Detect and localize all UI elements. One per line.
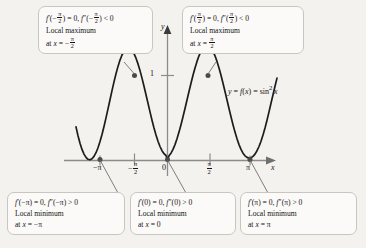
callout-location: at x = π2 bbox=[190, 36, 297, 50]
callout-classification: Local maximum bbox=[46, 25, 146, 36]
leader-line-min-right bbox=[250, 160, 268, 193]
leader-line-min-left bbox=[100, 160, 118, 193]
x-tick-label-half-pi: π2 bbox=[206, 161, 212, 175]
callout-location: at x = 0 bbox=[138, 219, 229, 230]
point-local-min-pi bbox=[248, 157, 253, 162]
y-tick-label-one: 1 bbox=[150, 69, 154, 78]
x-axis-label: x bbox=[271, 163, 275, 172]
callout-classification: Local minimum bbox=[15, 208, 118, 219]
callout-local-min-neg-pi: f′(−π) = 0, f″(−π) > 0 Local minimum at … bbox=[7, 192, 125, 235]
callout-location: at x = −π2 bbox=[46, 36, 146, 50]
leader-line-max-right bbox=[208, 62, 216, 74]
point-local-min-neg-pi bbox=[98, 157, 103, 162]
callout-location: at x = −π bbox=[15, 219, 118, 230]
callout-local-max-neg-half-pi: f′(−π2) = 0, f″(−π2) < 0 Local maximum a… bbox=[38, 6, 153, 54]
callout-derivative-line: f′(π) = 0, f″(π) > 0 bbox=[248, 197, 350, 208]
x-tick-label-pi: π bbox=[246, 163, 250, 172]
callout-classification: Local minimum bbox=[248, 208, 350, 219]
x-tick-label-zero: 0 bbox=[162, 163, 166, 172]
callout-local-min-pi: f′(π) = 0, f″(π) > 0 Local minimum at x … bbox=[240, 192, 357, 235]
function-equation-label: y = f(x) = sin2 x bbox=[228, 84, 278, 96]
callout-local-max-half-pi: f′(π2) = 0, f″(π2) < 0 Local maximum at … bbox=[182, 6, 304, 54]
x-tick-label-neg-half-pi: −π2 bbox=[128, 161, 139, 175]
callout-classification: Local minimum bbox=[138, 208, 229, 219]
callout-classification: Local maximum bbox=[190, 25, 297, 36]
figure-stage: y x 1 y = f(x) = sin2 x −π −π2 0 π2 π f′… bbox=[0, 0, 366, 248]
x-tick-label-neg-pi: −π bbox=[93, 163, 102, 172]
callout-location: at x = π bbox=[248, 219, 350, 230]
point-local-min-zero bbox=[165, 157, 170, 162]
y-axis-label: y bbox=[161, 22, 165, 31]
callout-local-min-zero: f′(0) = 0, f″(0) > 0 Local minimum at x … bbox=[130, 192, 236, 235]
callout-derivative-line: f′(0) = 0, f″(0) > 0 bbox=[138, 197, 229, 208]
leader-line-min-center bbox=[168, 160, 187, 193]
callout-derivative-line: f′(−π2) = 0, f″(−π2) < 0 bbox=[46, 11, 146, 25]
leader-line-max-left bbox=[124, 62, 135, 74]
sin-squared-curve bbox=[76, 45, 277, 160]
callout-derivative-line: f′(−π) = 0, f″(−π) > 0 bbox=[15, 197, 118, 208]
callout-derivative-line: f′(π2) = 0, f″(π2) < 0 bbox=[190, 11, 297, 25]
